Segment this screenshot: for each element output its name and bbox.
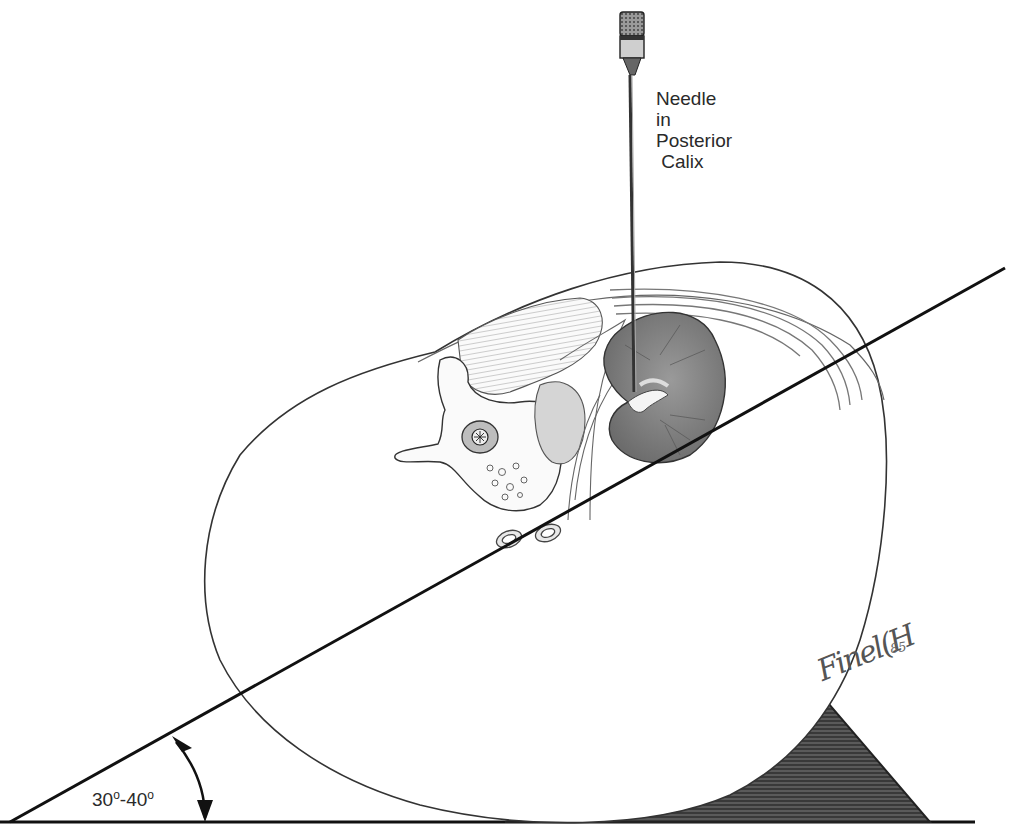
signature-year: 85: [889, 639, 908, 657]
angle-from: 30: [92, 789, 113, 810]
needle-label-line: in: [656, 109, 732, 130]
needle-label-line: Needle: [656, 88, 732, 109]
degree-mark: o: [147, 788, 154, 802]
needle-label-line: Posterior: [656, 130, 732, 151]
arrowhead-down-icon: [197, 800, 213, 822]
degree-mark: o: [113, 788, 120, 802]
psoas-muscle: [535, 382, 585, 464]
needle-label: Needle in Posterior Calix: [656, 88, 732, 172]
needle-label-line: Calix: [656, 151, 732, 172]
angle-to: 40: [126, 789, 147, 810]
arrowhead-up-icon: [172, 736, 192, 752]
needle-hub-cap: [620, 12, 644, 36]
angle-label: 30o-40o: [92, 785, 154, 810]
illustration-canvas: [0, 0, 1013, 840]
